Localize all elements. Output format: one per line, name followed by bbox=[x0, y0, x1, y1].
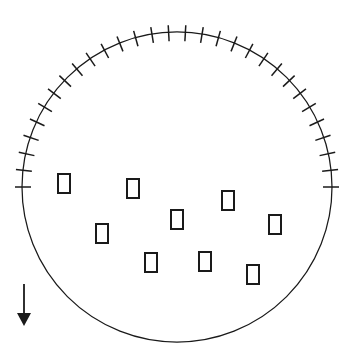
tick-mark bbox=[201, 27, 204, 43]
figure-root bbox=[0, 0, 355, 355]
rectangular-marker bbox=[58, 174, 70, 193]
rectangular-marker bbox=[222, 191, 234, 210]
tick-mark bbox=[151, 27, 154, 43]
rectangle-group bbox=[58, 174, 281, 284]
rectangular-marker bbox=[96, 224, 108, 243]
rectangular-marker bbox=[199, 252, 211, 271]
rectangular-marker bbox=[171, 210, 183, 229]
circle-diagram-svg bbox=[0, 0, 355, 355]
rectangular-marker bbox=[127, 179, 139, 198]
tick-mark bbox=[322, 169, 338, 171]
tick-mark bbox=[168, 25, 169, 41]
tick-mark bbox=[16, 169, 32, 171]
rectangular-marker bbox=[269, 215, 281, 234]
tick-mark bbox=[19, 152, 35, 155]
tick-mark bbox=[259, 53, 268, 66]
tick-mark bbox=[185, 25, 186, 41]
rectangular-marker bbox=[247, 265, 259, 284]
arrow-group bbox=[17, 284, 31, 326]
tick-mark bbox=[86, 53, 95, 66]
tick-mark bbox=[320, 152, 336, 155]
arrow-head-icon bbox=[17, 313, 31, 326]
rectangular-marker bbox=[145, 253, 157, 272]
tick-group bbox=[15, 25, 339, 187]
